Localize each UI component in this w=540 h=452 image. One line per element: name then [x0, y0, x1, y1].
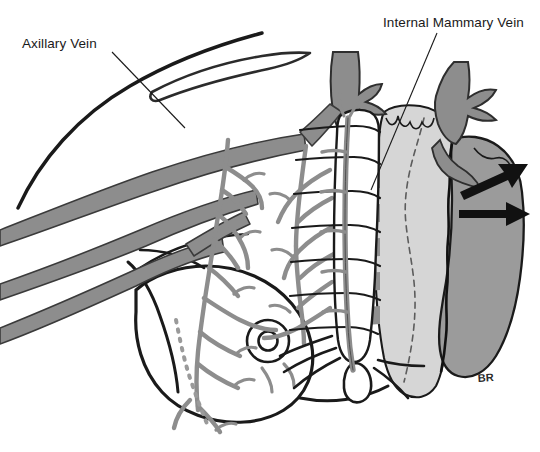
sternum [334, 110, 379, 362]
label-internal-mammary-vein: Internal Mammary Vein [383, 15, 524, 30]
anatomy-figure: Axillary Vein Internal Mammary Vein BR [0, 0, 540, 452]
perforator-3 [321, 231, 345, 233]
perforator-2 [321, 191, 345, 193]
label-axillary-vein: Axillary Vein [22, 36, 97, 51]
perforator-5 [323, 311, 347, 313]
perforator-1 [322, 151, 346, 153]
anatomy-illustration: Axillary Vein Internal Mammary Vein BR [0, 0, 540, 452]
perforator-4 [322, 271, 346, 273]
artist-signature: BR [477, 371, 494, 384]
xiphoid-process [344, 363, 371, 402]
